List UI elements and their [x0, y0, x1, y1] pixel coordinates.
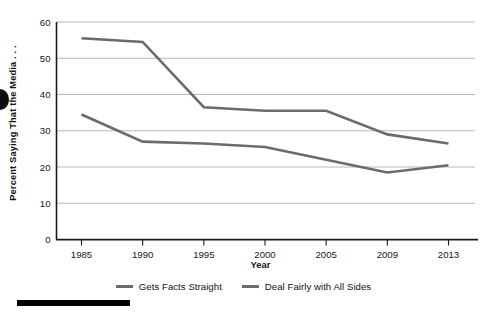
- y-tick-label: 0: [45, 234, 50, 245]
- y-tick-label: 50: [40, 53, 51, 64]
- chart-figure: Percent Saying That the Media . . . 0102…: [0, 0, 487, 313]
- legend-item-label: Gets Facts Straight: [139, 281, 222, 292]
- chart-legend: Gets Facts Straight Deal Fairly with All…: [0, 281, 487, 292]
- x-tick-label: 2005: [315, 249, 336, 260]
- legend-item-label: Deal Fairly with All Sides: [265, 281, 371, 292]
- legend-item-gets-facts-straight: Gets Facts Straight: [116, 281, 222, 292]
- x-tick-label: 1990: [132, 249, 153, 260]
- x-tick-label: 1985: [71, 249, 92, 260]
- line-swatch-icon: [116, 285, 133, 288]
- x-tick-label: 1995: [193, 249, 214, 260]
- line-swatch-icon: [242, 285, 259, 288]
- series-line-1: [82, 38, 449, 143]
- plot-area: 0102030405060 19851990199520002005200920…: [26, 6, 487, 274]
- x-tick-label: 2009: [377, 249, 398, 260]
- y-axis-title-label: Percent Saying That the Media . . .: [8, 45, 18, 201]
- line-chart-svg: 0102030405060 19851990199520002005200920…: [26, 6, 487, 274]
- x-axis-title: Year: [0, 259, 487, 270]
- y-tick-label: 10: [40, 198, 51, 209]
- y-axis-title: Percent Saying That the Media . . .: [0, 0, 26, 245]
- x-axis-title-label: Year: [250, 259, 270, 270]
- y-tick-label: 20: [40, 162, 51, 173]
- y-tick-label: 40: [40, 89, 51, 100]
- y-tick-label: 30: [40, 125, 51, 136]
- x-tick-label-group: 1985199019952000200520092013: [71, 249, 459, 260]
- y-tick-label: 60: [40, 17, 51, 28]
- legend-item-deal-fairly-with-all-sides: Deal Fairly with All Sides: [242, 281, 371, 292]
- x-tick-label: 2000: [254, 249, 275, 260]
- y-tick-label-group: 0102030405060: [40, 17, 51, 246]
- x-tick-label: 2013: [438, 249, 459, 260]
- bottom-rule-divider: [17, 300, 130, 306]
- series-line-2: [82, 114, 449, 172]
- gridlines-group: [57, 22, 476, 203]
